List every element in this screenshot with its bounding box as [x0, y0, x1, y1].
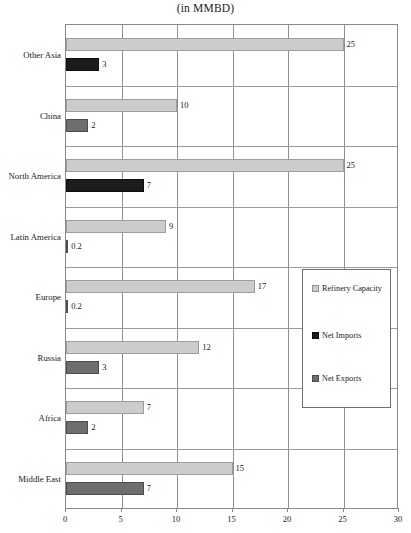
legend-label: Net Exports [322, 374, 361, 383]
bar-refinery-capacity [66, 462, 233, 475]
bar-value-label: 7 [147, 482, 151, 495]
x-tick-5 [121, 508, 122, 512]
category-group: 253 [66, 25, 397, 86]
bar-refinery-capacity [66, 38, 344, 51]
category-label-europe: Europe [0, 292, 61, 302]
bar-refinery-capacity [66, 159, 344, 172]
bar-value-label: 10 [180, 99, 189, 112]
bar-net-exports [66, 361, 99, 374]
bar-net-imports [66, 58, 99, 71]
x-tick-0 [65, 508, 66, 512]
legend: Refinery CapacityNet ImportsNet Exports [302, 269, 391, 408]
bar-net-exports [66, 482, 144, 495]
category-label-other-asia: Other Asia [0, 50, 61, 60]
legend-swatch-icon [312, 332, 319, 339]
bar-net-exports [66, 119, 88, 132]
legend-item-exports: Net Exports [312, 374, 361, 383]
bar-value-label: 3 [102, 361, 106, 374]
legend-item-capacity: Refinery Capacity [312, 284, 382, 293]
legend-label: Net Imports [322, 331, 361, 340]
x-tick-label-15: 15 [227, 514, 236, 524]
plot-area: 25310225790.2170.212372157 [65, 24, 398, 508]
x-tick-30 [398, 508, 399, 512]
bar-value-label: 9 [169, 220, 173, 233]
category-label-north-america: North America [0, 171, 61, 181]
legend-swatch-icon [312, 375, 319, 382]
bar-net-imports [66, 179, 144, 192]
bar-value-label: 0.2 [71, 240, 82, 253]
legend-item-imports: Net Imports [312, 331, 361, 340]
bar-refinery-capacity [66, 220, 166, 233]
category-label-middle-east: Middle East [0, 474, 61, 484]
x-tick-label-25: 25 [338, 514, 347, 524]
category-group: 157 [66, 449, 397, 510]
x-tick-label-30: 30 [394, 514, 403, 524]
bar-value-label: 3 [102, 58, 106, 71]
refinery-capacity-chart: (in MMBD) 25310225790.2170.212372157 Oth… [0, 0, 411, 533]
bar-value-label: 17 [258, 280, 267, 293]
x-tick-label-10: 10 [172, 514, 181, 524]
bar-refinery-capacity [66, 99, 177, 112]
category-group: 90.2 [66, 207, 397, 268]
bar-value-label: 12 [202, 341, 211, 354]
legend-swatch-icon [312, 285, 319, 292]
bar-net-exports [66, 421, 88, 434]
category-label-africa: Africa [0, 413, 61, 423]
x-tick-label-5: 5 [118, 514, 122, 524]
category-label-china: China [0, 111, 61, 121]
category-group: 102 [66, 86, 397, 147]
x-tick-20 [287, 508, 288, 512]
bar-value-label: 15 [236, 462, 245, 475]
legend-label: Refinery Capacity [322, 284, 382, 293]
bar-value-label: 2 [91, 421, 95, 434]
bar-net-exports [66, 300, 68, 313]
bar-refinery-capacity [66, 280, 255, 293]
x-tick-15 [232, 508, 233, 512]
category-label-latin-america: Latin America [0, 232, 61, 242]
x-tick-label-0: 0 [63, 514, 67, 524]
bar-value-label: 0.2 [71, 300, 82, 313]
bar-refinery-capacity [66, 341, 199, 354]
bar-value-label: 7 [147, 179, 151, 192]
x-tick-25 [343, 508, 344, 512]
bar-value-label: 25 [347, 38, 356, 51]
category-group: 257 [66, 146, 397, 207]
x-tick-10 [176, 508, 177, 512]
chart-title: (in MMBD) [0, 2, 411, 14]
bar-value-label: 2 [91, 119, 95, 132]
category-label-russia: Russia [0, 353, 61, 363]
x-tick-label-20: 20 [283, 514, 292, 524]
bar-net-exports [66, 240, 68, 253]
bar-value-label: 7 [147, 401, 151, 414]
bar-value-label: 25 [347, 159, 356, 172]
bar-refinery-capacity [66, 401, 144, 414]
